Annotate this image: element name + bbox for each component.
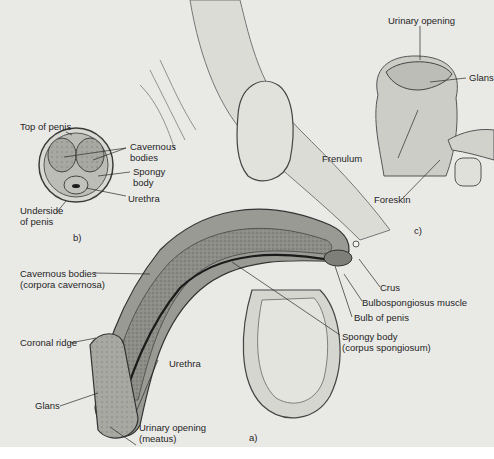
label-spongy-body: Spongy body (corpus spongiosum): [342, 331, 431, 353]
panel-label-a: a): [249, 432, 257, 443]
label-spongy-body-cross: Spongy body: [133, 166, 165, 188]
label-urinary-opening-external: Urinary opening: [388, 15, 455, 26]
label-glans: Glans: [35, 400, 60, 411]
label-coronal-ridge: Coronal ridge: [20, 337, 77, 348]
label-urethra-cross: Urethra: [128, 193, 160, 204]
anatomy-diagram: Top of penis Cavernous bodies Spongy bod…: [0, 0, 494, 459]
label-foreskin: Foreskin: [374, 194, 410, 205]
label-bulb-of-penis: Bulb of penis: [354, 312, 409, 323]
sagittal-section-illustration: [90, 0, 390, 438]
label-top-of-penis: Top of penis: [20, 121, 71, 132]
label-cavernous-bodies: Cavernous bodies (corpora cavernosa): [20, 268, 105, 290]
panel-label-b: b): [73, 232, 81, 243]
label-underside-of-penis: Underside of penis: [20, 205, 63, 227]
label-frenulum: Frenulum: [322, 153, 362, 164]
panel-label-c: c): [414, 225, 422, 236]
label-cavernous-bodies-cross: Cavernous bodies: [130, 141, 176, 163]
label-glans-external: Glans: [469, 72, 494, 83]
label-urinary-opening-meatus: Urinary opening (meatus): [139, 422, 206, 444]
label-urethra: Urethra: [169, 358, 201, 369]
label-bulbospongiosus-muscle: Bulbospongiosus muscle: [362, 297, 467, 308]
label-crus: Crus: [380, 282, 400, 293]
